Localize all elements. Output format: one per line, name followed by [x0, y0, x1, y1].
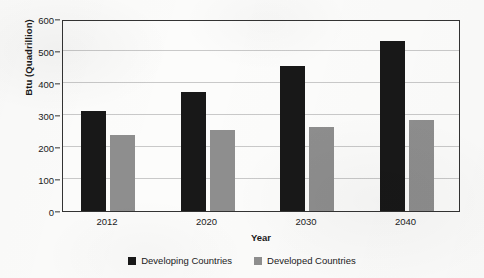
x-tick-label: 2012 [72, 216, 142, 227]
x-axis-title: Year [62, 232, 460, 243]
y-tick-mark [55, 179, 60, 180]
bar [181, 92, 206, 211]
bar [380, 41, 405, 211]
y-tick-mark [55, 147, 60, 148]
y-tick-mark [55, 211, 60, 212]
legend-label: Developed Countries [267, 255, 356, 266]
y-tick-label: 600 [14, 15, 54, 26]
legend-item: Developed Countries [254, 255, 356, 266]
chart-legend: Developing CountriesDeveloped Countries [0, 255, 484, 266]
x-tick-label: 2030 [271, 216, 341, 227]
y-tick-label: 300 [14, 111, 54, 122]
y-tick-label: 200 [14, 143, 54, 154]
legend-label: Developing Countries [141, 255, 232, 266]
bar [210, 130, 235, 211]
bar [81, 111, 106, 211]
bar [309, 127, 334, 211]
legend-item: Developing Countries [128, 255, 232, 266]
y-tick-mark [55, 51, 60, 52]
bar-group [280, 66, 334, 211]
y-tick-mark [55, 19, 60, 20]
y-tick-label: 0 [14, 207, 54, 218]
bar [110, 135, 135, 211]
plot-area [62, 20, 460, 212]
bar-group [380, 41, 434, 211]
bar [280, 66, 305, 211]
bar-group [81, 111, 135, 211]
bar-group [181, 92, 235, 211]
bar [409, 120, 434, 211]
y-tick-mark [55, 115, 60, 116]
legend-swatch [254, 257, 262, 265]
y-tick-label: 400 [14, 79, 54, 90]
bar-chart: Btu (Quadrillion) 0100200300400500600 20… [0, 0, 484, 278]
y-tick-mark [55, 83, 60, 84]
y-tick-label: 500 [14, 47, 54, 58]
legend-swatch [128, 257, 136, 265]
x-tick-label: 2040 [371, 216, 441, 227]
x-tick-label: 2020 [172, 216, 242, 227]
y-tick-label: 100 [14, 175, 54, 186]
